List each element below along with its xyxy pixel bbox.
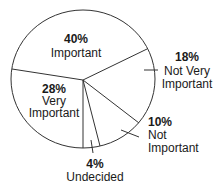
label-not-important-1: Not xyxy=(148,128,167,142)
slice-label-not-very-important: 18% Not Very Important xyxy=(162,50,213,91)
slice-label-not-important: 10% Not Important xyxy=(148,115,199,155)
label-not-very-important-2: Important xyxy=(162,77,213,91)
label-undecided: Undecided xyxy=(66,170,123,184)
label-very-important-2: Important xyxy=(29,106,80,120)
pie-chart: 40% Important 18% Not Very Important 28%… xyxy=(0,0,216,195)
pct-important: 40% xyxy=(64,32,88,46)
pct-not-important: 10% xyxy=(148,115,172,129)
label-important: Important xyxy=(51,46,102,60)
label-not-very-important-1: Not Very xyxy=(164,64,210,78)
label-not-important-2: Important xyxy=(148,141,199,155)
pct-undecided: 4% xyxy=(86,157,104,171)
pct-not-very-important: 18% xyxy=(175,50,199,64)
slice-label-undecided: 4% Undecided xyxy=(66,157,123,184)
